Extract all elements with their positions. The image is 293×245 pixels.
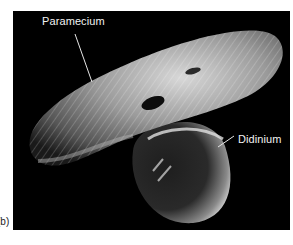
micrograph-illustration (13, 11, 290, 230)
didinium-label: Didinium (238, 133, 282, 145)
panel-label: (b) (0, 216, 9, 227)
micrograph-image: Paramecium Didinium (13, 11, 290, 230)
paramecium-label: Paramecium (42, 15, 105, 27)
didinium-body (132, 122, 230, 223)
